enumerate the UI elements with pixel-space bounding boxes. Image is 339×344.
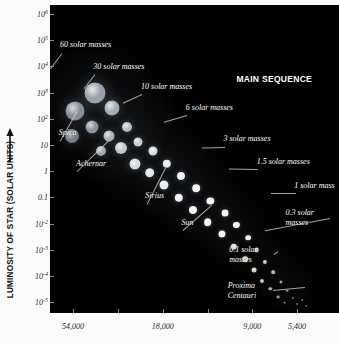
y-tick-mark [50, 40, 54, 41]
star-marker [145, 168, 155, 178]
x-tick-label: 9,000 [243, 322, 261, 331]
y-tick-mark [50, 276, 54, 277]
leader-line [272, 287, 304, 291]
x-tick-mark [297, 309, 298, 313]
y-tick-label: 102 [14, 113, 48, 124]
x-axis-tick-labels: 54,00018,0009,0005,400 [50, 322, 339, 340]
star-marker [189, 206, 197, 214]
y-tick-mark [50, 224, 54, 225]
star-marker [271, 271, 275, 275]
y-tick-mark [50, 302, 54, 303]
annotation-label: Achernar [76, 159, 106, 169]
main-sequence-title: MAIN SEQUENCE [236, 74, 312, 84]
leader-line [202, 147, 225, 149]
y-tick-label: 10-3 [14, 244, 48, 255]
star-marker [245, 235, 251, 241]
y-tick-label: 10-5 [14, 297, 48, 308]
y-tick-label: 105 [14, 35, 48, 46]
star-marker [163, 159, 171, 167]
star-marker [134, 138, 143, 147]
star-marker [251, 268, 256, 273]
x-tick-label: 18,000 [152, 322, 174, 331]
annotation-label: 60 solar masses [60, 40, 111, 50]
star-marker [286, 290, 289, 293]
y-tick-label: 0.1 [14, 193, 48, 202]
y-tick-label: 1 [14, 167, 48, 176]
plot-area: 60 solar masses30 solar masses10 solar m… [50, 5, 339, 313]
star-marker [148, 147, 157, 156]
star-marker [233, 222, 239, 228]
star-marker [221, 209, 228, 216]
x-tick-label: 54,000 [62, 322, 84, 331]
annotation-label: Spica [59, 128, 77, 138]
annotation-label: 0.3 solar masses [286, 208, 314, 228]
star-marker [305, 305, 307, 307]
y-tick-mark [50, 171, 54, 172]
leader-line [164, 115, 187, 123]
star-marker [65, 102, 84, 121]
x-tick-label: 5,400 [288, 322, 306, 331]
star-marker [260, 279, 264, 283]
star-marker [122, 122, 132, 132]
star-marker [283, 301, 285, 303]
y-tick-mark [50, 66, 54, 67]
leader-line [270, 193, 295, 194]
y-tick-mark [50, 119, 54, 120]
y-tick-label: 103 [14, 87, 48, 98]
star-marker [279, 281, 282, 284]
annotation-label: 6 solar masses [186, 103, 233, 113]
star-marker [174, 193, 182, 201]
x-tick-mark [73, 309, 74, 313]
annotation-label: 1 solar mass [294, 181, 334, 191]
y-tick-label: 10 [14, 141, 48, 150]
star-marker [85, 120, 98, 133]
star-marker [130, 158, 141, 169]
hr-diagram-figure: LUMINOSITY OF STAR (SOLAR UNITS) 1061051… [0, 0, 339, 344]
x-tick-mark [163, 309, 164, 313]
y-tick-mark [50, 250, 54, 251]
x-tick-mark [118, 309, 119, 313]
annotation-label: 3 solar masses [223, 134, 270, 144]
annotation-label: Proxima Centauri [228, 281, 256, 301]
star-marker [276, 296, 279, 299]
star-marker [218, 231, 225, 238]
star-marker [301, 299, 303, 301]
x-tick-mark [252, 309, 253, 313]
y-tick-label: 104 [14, 61, 48, 72]
star-marker [204, 218, 212, 226]
star-marker [105, 101, 120, 116]
y-tick-label: 10-2 [14, 218, 48, 229]
star-marker [269, 287, 272, 290]
y-tick-mark [50, 93, 54, 94]
star-marker [296, 303, 298, 305]
star-marker [160, 181, 169, 190]
y-axis-tick-labels: 1061051041031021010.110-210-310-410-5 [10, 0, 48, 344]
star-marker [192, 184, 200, 192]
annotation-label: 0.1 solar masses [229, 245, 257, 265]
annotation-label: 10 solar masses [141, 82, 192, 92]
annotation-label: 1.5 solar masses [257, 157, 310, 167]
leader-line [123, 94, 142, 104]
star-marker [104, 130, 115, 141]
y-tick-mark [50, 145, 54, 146]
y-tick-mark [50, 14, 54, 15]
star-marker [207, 197, 214, 204]
star-marker [115, 142, 127, 154]
leader-line [229, 168, 258, 170]
star-marker [84, 82, 105, 103]
x-tick-mark [208, 309, 209, 313]
leader-line [274, 251, 279, 255]
star-marker [263, 260, 267, 264]
y-tick-label: 106 [14, 9, 48, 20]
y-tick-mark [50, 197, 54, 198]
annotation-label: 30 solar masses [93, 62, 144, 72]
annotation-label: Sun [181, 218, 193, 228]
annotation-label: Sirius [145, 191, 164, 201]
star-marker [177, 172, 185, 180]
y-tick-label: 10-4 [14, 271, 48, 282]
star-marker [292, 297, 294, 299]
